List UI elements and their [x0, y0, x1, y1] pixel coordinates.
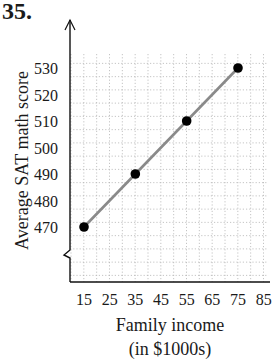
- svg-text:15: 15: [76, 291, 92, 308]
- data-series: [79, 63, 243, 232]
- chart-plot: 470480490500510520530 1525354555657585: [0, 0, 274, 364]
- svg-text:480: 480: [34, 193, 58, 210]
- y-tick-labels: 470480490500510520530: [34, 60, 58, 236]
- svg-text:85: 85: [256, 291, 272, 308]
- svg-text:490: 490: [34, 166, 58, 183]
- x-tick-labels: 1525354555657585: [76, 291, 272, 308]
- svg-text:520: 520: [34, 87, 58, 104]
- svg-text:470: 470: [34, 219, 58, 236]
- svg-text:25: 25: [102, 291, 118, 308]
- x-axis-label-line2: (in $1000s): [70, 337, 270, 361]
- axes: [64, 20, 270, 282]
- svg-text:75: 75: [230, 291, 246, 308]
- svg-text:510: 510: [34, 113, 58, 130]
- grid: [70, 54, 268, 282]
- svg-text:45: 45: [153, 291, 169, 308]
- x-axis-label-line1: Family income: [70, 313, 270, 337]
- x-axis-label: Family income (in $1000s): [70, 313, 270, 361]
- svg-text:35: 35: [127, 291, 143, 308]
- svg-text:530: 530: [34, 60, 58, 77]
- svg-text:500: 500: [34, 140, 58, 157]
- svg-text:55: 55: [179, 291, 195, 308]
- y-axis-label: Average SAT math score: [12, 61, 33, 261]
- svg-text:65: 65: [204, 291, 220, 308]
